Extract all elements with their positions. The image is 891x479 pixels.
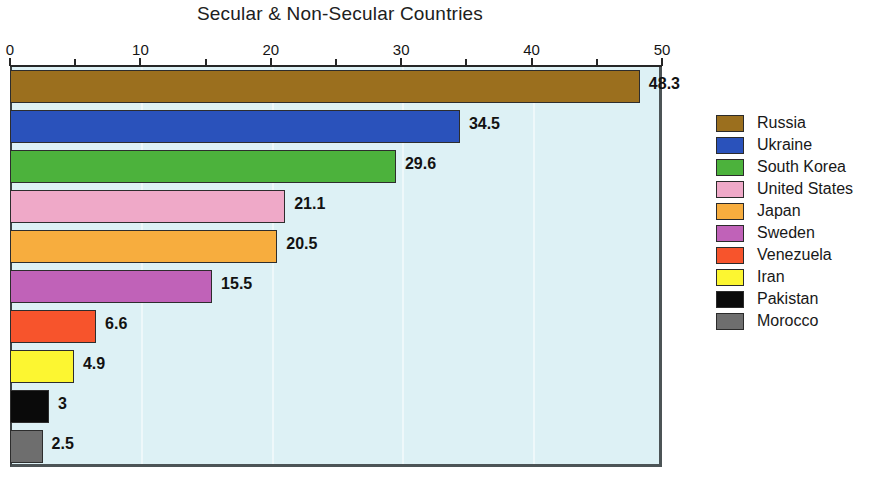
legend-item[interactable]: Morocco bbox=[716, 310, 891, 332]
legend-swatch-icon bbox=[716, 225, 744, 242]
bar-row: 4.9 bbox=[10, 347, 890, 387]
bar-pakistan[interactable] bbox=[10, 390, 49, 423]
bar-south-korea[interactable] bbox=[10, 150, 396, 183]
legend-swatch-icon bbox=[716, 291, 744, 308]
x-axis-tick-label: 30 bbox=[393, 41, 410, 58]
bar-row: 2.5 bbox=[10, 427, 890, 467]
legend-swatch-icon bbox=[716, 269, 744, 286]
legend-label: Russia bbox=[757, 114, 806, 132]
x-axis-tick-mark bbox=[9, 58, 11, 66]
legend-swatch-icon bbox=[716, 203, 744, 220]
x-axis-tick-mark bbox=[531, 58, 533, 66]
bar-chart: Secular & Non-Secular Countries 01020304… bbox=[0, 0, 891, 479]
chart-legend: RussiaUkraineSouth KoreaUnited StatesJap… bbox=[716, 112, 891, 332]
bar-value-label: 6.6 bbox=[105, 315, 127, 333]
legend-label: Iran bbox=[757, 268, 785, 286]
legend-swatch-icon bbox=[716, 313, 744, 330]
bar-ukraine[interactable] bbox=[10, 110, 460, 143]
bar-value-label: 15.5 bbox=[221, 275, 252, 293]
x-axis-tick-label: 10 bbox=[132, 41, 149, 58]
bar-value-label: 20.5 bbox=[286, 235, 317, 253]
bar-japan[interactable] bbox=[10, 230, 277, 263]
legend-label: Ukraine bbox=[757, 136, 812, 154]
x-axis-tick-mark bbox=[205, 59, 207, 66]
bar-value-label: 4.9 bbox=[83, 355, 105, 373]
legend-label: Pakistan bbox=[757, 290, 818, 308]
legend-swatch-icon bbox=[716, 137, 744, 154]
x-axis-tick-label: 50 bbox=[654, 41, 671, 58]
x-axis-tick-label: 20 bbox=[262, 41, 279, 58]
bar-united-states[interactable] bbox=[10, 190, 285, 223]
bar-value-label: 29.6 bbox=[405, 155, 436, 173]
x-axis-tick-label: 40 bbox=[523, 41, 540, 58]
bar-value-label: 48.3 bbox=[649, 75, 680, 93]
legend-label: Morocco bbox=[757, 312, 818, 330]
legend-swatch-icon bbox=[716, 247, 744, 264]
chart-title: Secular & Non-Secular Countries bbox=[0, 3, 680, 25]
legend-item[interactable]: Ukraine bbox=[716, 134, 891, 156]
legend-item[interactable]: Pakistan bbox=[716, 288, 891, 310]
bar-value-label: 2.5 bbox=[52, 435, 74, 453]
bar-row: 3 bbox=[10, 387, 890, 427]
legend-item[interactable]: United States bbox=[716, 178, 891, 200]
x-axis-tick-mark bbox=[335, 59, 337, 66]
x-axis-tick-mark bbox=[270, 58, 272, 66]
bar-value-label: 21.1 bbox=[294, 195, 325, 213]
legend-item[interactable]: Russia bbox=[716, 112, 891, 134]
x-axis-tick-label: 0 bbox=[6, 41, 14, 58]
legend-item[interactable]: South Korea bbox=[716, 156, 891, 178]
x-axis-tick-mark bbox=[400, 58, 402, 66]
legend-label: Sweden bbox=[757, 224, 815, 242]
bar-morocco[interactable] bbox=[10, 430, 43, 463]
bar-iran[interactable] bbox=[10, 350, 74, 383]
bar-value-label: 34.5 bbox=[469, 115, 500, 133]
bar-value-label: 3 bbox=[58, 395, 67, 413]
legend-item[interactable]: Sweden bbox=[716, 222, 891, 244]
bar-russia[interactable] bbox=[10, 70, 640, 103]
legend-label: South Korea bbox=[757, 158, 846, 176]
legend-label: Venezuela bbox=[757, 246, 832, 264]
x-axis-tick-mark bbox=[139, 58, 141, 66]
legend-label: United States bbox=[757, 180, 853, 198]
x-axis-tick-mark bbox=[661, 58, 663, 66]
legend-swatch-icon bbox=[716, 115, 744, 132]
x-axis-tick-mark bbox=[74, 59, 76, 66]
legend-item[interactable]: Venezuela bbox=[716, 244, 891, 266]
legend-swatch-icon bbox=[716, 159, 744, 176]
legend-item[interactable]: Iran bbox=[716, 266, 891, 288]
legend-item[interactable]: Japan bbox=[716, 200, 891, 222]
legend-swatch-icon bbox=[716, 181, 744, 198]
legend-label: Japan bbox=[757, 202, 801, 220]
x-axis-tick-labels: 01020304050 bbox=[0, 41, 700, 61]
x-axis-tick-mark bbox=[596, 59, 598, 66]
bar-row: 48.3 bbox=[10, 67, 890, 107]
bar-sweden[interactable] bbox=[10, 270, 212, 303]
bar-venezuela[interactable] bbox=[10, 310, 96, 343]
x-axis-tick-mark bbox=[465, 59, 467, 66]
